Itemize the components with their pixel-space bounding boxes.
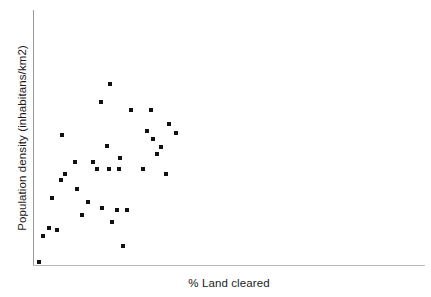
- data-point: [129, 108, 133, 112]
- data-point: [107, 167, 111, 171]
- data-point: [108, 82, 112, 86]
- data-point: [59, 178, 63, 182]
- data-point: [99, 100, 103, 104]
- x-axis-label: % Land cleared: [33, 277, 425, 289]
- data-point: [95, 167, 99, 171]
- data-point: [149, 108, 153, 112]
- data-point: [80, 213, 84, 217]
- data-point: [141, 167, 145, 171]
- data-point: [110, 220, 114, 224]
- data-point: [117, 167, 121, 171]
- data-point: [60, 133, 64, 137]
- data-point: [167, 122, 171, 126]
- plot-area: [0, 0, 431, 297]
- data-point: [151, 137, 155, 141]
- data-point: [91, 160, 95, 164]
- data-point: [164, 172, 168, 176]
- data-point: [155, 152, 159, 156]
- data-point: [75, 187, 79, 191]
- y-axis-label: Population density (inhabitans/km2): [11, 8, 33, 268]
- data-point: [121, 244, 125, 248]
- data-point: [159, 145, 163, 149]
- data-point: [125, 208, 129, 212]
- data-point: [115, 208, 119, 212]
- data-point: [100, 206, 104, 210]
- data-point: [63, 172, 67, 176]
- data-point: [37, 260, 41, 264]
- data-point: [41, 234, 45, 238]
- data-point: [174, 131, 178, 135]
- data-point: [118, 156, 122, 160]
- data-point: [145, 129, 149, 133]
- data-point: [105, 144, 109, 148]
- data-point: [47, 226, 51, 230]
- data-point: [86, 200, 90, 204]
- data-point: [55, 228, 59, 232]
- scatter-plot-figure: Population density (inhabitans/km2) % La…: [0, 0, 431, 297]
- data-point: [50, 196, 54, 200]
- data-point: [73, 160, 77, 164]
